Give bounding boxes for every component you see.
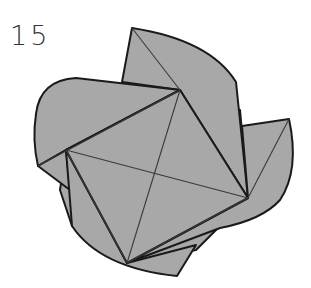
origami-diagram [0,0,311,288]
paper-model [34,28,293,276]
